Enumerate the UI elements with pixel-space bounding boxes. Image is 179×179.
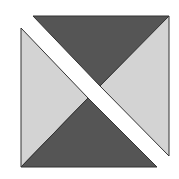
diagram-canvas <box>0 0 179 179</box>
